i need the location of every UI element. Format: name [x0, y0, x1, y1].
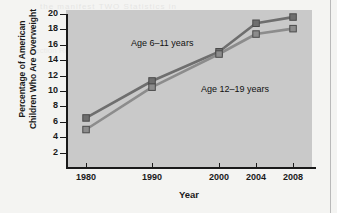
- data-point-marker: [149, 84, 156, 91]
- data-point-marker: [216, 51, 223, 58]
- data-point-marker: [83, 115, 90, 122]
- data-point-marker: [253, 20, 259, 27]
- page-right-rule: [330, 0, 331, 213]
- data-point-marker: [253, 31, 259, 38]
- scanned-page: the manifest TWO Statistics in Section R…: [0, 0, 337, 213]
- data-point-marker: [290, 14, 297, 20]
- series-label: Age 6–11 years: [131, 38, 193, 48]
- data-point-marker: [83, 126, 90, 133]
- line-chart: 2468101214161820 19801990200020042008 Pe…: [0, 0, 330, 213]
- series-label: Age 12–19 years: [201, 84, 269, 94]
- data-point-marker: [290, 25, 297, 32]
- data-point-marker: [149, 78, 156, 85]
- data-series-layer: [0, 0, 330, 213]
